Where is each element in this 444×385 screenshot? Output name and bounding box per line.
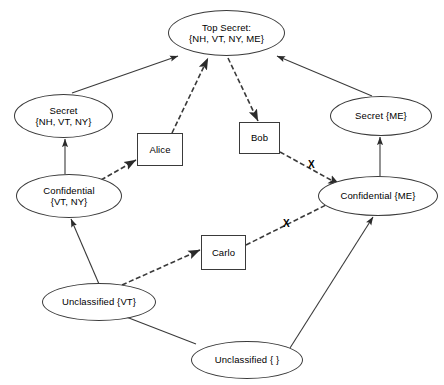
node-top-secret[interactable]: Top Secret:{NH, VT, NY, ME} bbox=[168, 10, 285, 56]
node-label: Carlo bbox=[212, 247, 235, 259]
node-label: Unclassified {VT} bbox=[62, 296, 136, 308]
node-unclassified-vt[interactable]: Unclassified {VT} bbox=[42, 283, 156, 321]
edge-unclassified-empty-to-confidential-me bbox=[290, 217, 373, 348]
blocked-marker-x-carlo-confidential-me: X bbox=[283, 219, 290, 229]
node-secret-me[interactable]: Secret {ME} bbox=[330, 96, 432, 136]
edge-secret-me-to-top-secret bbox=[277, 56, 372, 96]
security-lattice-diagram: Top Secret:{NH, VT, NY, ME}Secret{NH, VT… bbox=[0, 0, 444, 385]
edge-unclassified-vt-to-carlo bbox=[122, 250, 200, 285]
node-carlo[interactable]: Carlo bbox=[201, 235, 246, 270]
edge-carlo-to-confidential-me bbox=[246, 199, 338, 245]
edge-alice-to-top-secret bbox=[172, 58, 208, 133]
blocked-marker-x-bob-confidential-me: X bbox=[308, 160, 315, 170]
node-label: Bob bbox=[251, 132, 268, 144]
edge-secret-nhvtny-to-top-secret bbox=[72, 56, 178, 93]
node-label: {NH, VT, NY, ME} bbox=[189, 33, 264, 45]
node-label: Secret {ME} bbox=[355, 110, 407, 122]
edge-top-secret-to-bob bbox=[228, 58, 258, 121]
node-label: Top Secret: bbox=[202, 22, 251, 34]
node-secret-nh-vt-ny[interactable]: Secret{NH, VT, NY} bbox=[14, 94, 113, 138]
node-label: Secret bbox=[49, 105, 77, 117]
node-confidential-vt-ny[interactable]: Confidential{VT, NY} bbox=[16, 174, 122, 218]
node-label: Confidential bbox=[43, 185, 94, 197]
node-label: {NH, VT, NY} bbox=[35, 116, 91, 128]
node-label: Confidential {ME} bbox=[340, 190, 415, 202]
node-label: {VT, NY} bbox=[51, 196, 88, 208]
edge-confidential-vtny-to-alice bbox=[101, 160, 136, 180]
node-unclassified-empty[interactable]: Unclassified { } bbox=[191, 341, 303, 379]
edge-unclassified-vt-to-confidential-vtny bbox=[71, 219, 99, 284]
node-label: Unclassified { } bbox=[215, 354, 279, 366]
node-alice[interactable]: Alice bbox=[137, 133, 183, 166]
node-label: Alice bbox=[149, 144, 170, 156]
node-confidential-me[interactable]: Confidential {ME} bbox=[318, 176, 438, 216]
node-bob[interactable]: Bob bbox=[239, 122, 280, 154]
